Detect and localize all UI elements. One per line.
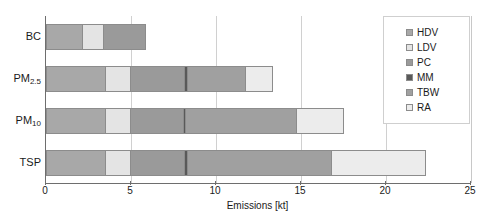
bar-BC bbox=[46, 24, 146, 50]
y-axis-label-PM2.5: PM2.5 bbox=[0, 73, 41, 84]
bar-segment-TSP-TBW bbox=[188, 150, 333, 176]
x-tick-label-20: 20 bbox=[379, 185, 390, 196]
x-tick-label-10: 10 bbox=[209, 185, 220, 196]
bar-segment-PM10-RA bbox=[297, 108, 345, 134]
legend-swatch-LDV bbox=[406, 44, 413, 51]
bar-segment-PM10-TBW bbox=[186, 108, 297, 134]
legend-item-HDV[interactable]: HDV bbox=[406, 25, 469, 40]
y-axis-label-BC: BC bbox=[0, 31, 41, 42]
legend-swatch-TBW bbox=[406, 89, 413, 96]
legend-swatch-RA bbox=[406, 104, 413, 111]
y-axis-label-TSP: TSP bbox=[0, 157, 41, 168]
legend-item-TBW[interactable]: TBW bbox=[406, 85, 469, 100]
bar-PM10 bbox=[46, 108, 344, 134]
bar-segment-PM10-HDV bbox=[46, 108, 106, 134]
x-tick-label-15: 15 bbox=[294, 185, 305, 196]
x-tick-label-5: 5 bbox=[127, 185, 133, 196]
legend-label-TBW: TBW bbox=[417, 88, 439, 98]
bar-PM2.5 bbox=[46, 66, 273, 92]
emissions-stacked-bar-chart: BCPM2.5PM10TSP 0510152025 Emissions [kt]… bbox=[0, 0, 484, 221]
bar-segment-PM10-PC bbox=[131, 108, 184, 134]
chart-legend: HDVLDVPCMMTBWRA bbox=[383, 16, 470, 124]
gridline-25 bbox=[471, 16, 472, 183]
bar-segment-PM10-LDV bbox=[106, 108, 132, 134]
y-axis-labels: BCPM2.5PM10TSP bbox=[0, 16, 41, 184]
bar-segment-BC-HDV bbox=[46, 24, 83, 50]
legend-item-RA[interactable]: RA bbox=[406, 100, 469, 115]
bar-segment-PM2.5-HDV bbox=[46, 66, 106, 92]
x-tick-label-0: 0 bbox=[42, 185, 48, 196]
legend-item-LDV[interactable]: LDV bbox=[406, 40, 469, 55]
bar-segment-BC-LDV bbox=[83, 24, 103, 50]
legend-label-MM: MM bbox=[417, 73, 434, 83]
x-axis-ticks: 0510152025 bbox=[45, 185, 470, 201]
legend-swatch-PC bbox=[406, 59, 413, 66]
bar-segment-PM2.5-LDV bbox=[106, 66, 132, 92]
legend-item-MM[interactable]: MM bbox=[406, 70, 469, 85]
legend-swatch-MM bbox=[406, 74, 413, 81]
bar-segment-BC-PC bbox=[104, 24, 147, 50]
x-tick-label-25: 25 bbox=[464, 185, 475, 196]
legend-label-PC: PC bbox=[417, 58, 431, 68]
bar-TSP bbox=[46, 150, 426, 176]
bar-segment-TSP-HDV bbox=[46, 150, 106, 176]
legend-label-LDV: LDV bbox=[417, 43, 436, 53]
legend-swatch-HDV bbox=[406, 29, 413, 36]
bar-segment-PM2.5-RA bbox=[246, 66, 273, 92]
x-axis-title: Emissions [kt] bbox=[45, 200, 470, 211]
bar-segment-PM2.5-PC bbox=[131, 66, 185, 92]
legend-label-HDV: HDV bbox=[417, 28, 438, 38]
legend-label-RA: RA bbox=[417, 103, 431, 113]
bar-segment-TSP-PC bbox=[131, 150, 185, 176]
y-axis-label-PM10: PM10 bbox=[0, 115, 41, 126]
bar-segment-TSP-RA bbox=[332, 150, 426, 176]
legend-item-PC[interactable]: PC bbox=[406, 55, 469, 70]
bar-segment-TSP-LDV bbox=[106, 150, 132, 176]
bar-segment-PM2.5-TBW bbox=[188, 66, 246, 92]
